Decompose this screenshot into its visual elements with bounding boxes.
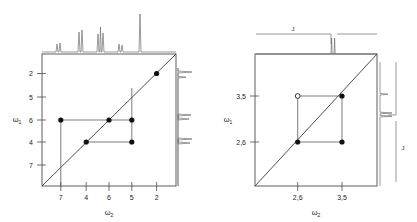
nmr-figure: 2 5 6 4 7 7 4 6 5 2 ω2 ω1 <box>0 0 417 222</box>
peak-cross-open-26-35 <box>295 94 300 99</box>
left-x-tick-label-4: 2 <box>155 194 159 201</box>
right-side-bracket <box>388 62 396 182</box>
right-side-bracket-label: J <box>402 145 405 151</box>
right-y-ticks <box>250 96 259 142</box>
peak-diagonal-26 <box>295 139 300 144</box>
right-peak-markers <box>295 93 345 144</box>
left-y-tick-label-4: 7 <box>29 162 33 169</box>
left-y-tick-label-0: 2 <box>29 70 33 77</box>
left-x-axis-label-sub: 2 <box>111 212 114 218</box>
left-x-tick-label-1: 4 <box>84 194 88 201</box>
peak-cross-35-26 <box>339 139 344 144</box>
left-peak-markers <box>58 71 159 145</box>
left-connectivity-lines <box>61 88 132 186</box>
right-side-trace <box>380 62 392 186</box>
left-y-axis-label: ω1 <box>13 115 22 125</box>
left-y-tick-label-1: 5 <box>29 94 33 101</box>
left-y-tick-label-2: 6 <box>29 117 33 124</box>
left-x-tick-label-2: 6 <box>107 194 111 201</box>
right-top-trace <box>256 38 377 54</box>
right-x-tick-label-1: 3,5 <box>337 194 347 201</box>
peak-diagonal-6 <box>106 117 111 122</box>
right-side-spectrum-path <box>380 62 392 186</box>
peak-cross-5-4 <box>129 139 134 144</box>
left-x-axis-label: ω2 <box>105 208 114 218</box>
peak-cross-5-6 <box>129 117 134 122</box>
right-y-tick-label-1: 2,6 <box>236 139 246 146</box>
right-y-axis-label: ω1 <box>224 115 233 125</box>
left-top-spectrum-path <box>42 14 176 52</box>
right-x-ticks <box>298 182 342 191</box>
right-top-bracket-label: J <box>292 26 295 32</box>
right-x-tick-label-0: 2,6 <box>293 194 303 201</box>
right-x-axis-label-sub: 2 <box>318 212 321 218</box>
peak-diagonal-2 <box>154 71 159 76</box>
left-y-ticks <box>37 74 46 166</box>
left-top-trace <box>42 14 176 52</box>
right-y-axis-label-sub: 1 <box>230 119 233 125</box>
right-y-tick-label-0: 3,5 <box>236 93 246 100</box>
peak-diagonal-4 <box>84 139 89 144</box>
left-side-trace <box>178 68 192 186</box>
figure-canvas: 2 5 6 4 7 7 4 6 5 2 ω2 ω1 <box>0 0 417 222</box>
right-connectivity-lines <box>298 96 342 142</box>
right-panel: J J <box>224 26 405 218</box>
left-x-ticks <box>61 182 157 191</box>
left-panel: 2 5 6 4 7 7 4 6 5 2 ω2 ω1 <box>13 14 192 218</box>
left-y-tick-label-3: 4 <box>29 139 33 146</box>
peak-diagonal-35 <box>339 93 344 98</box>
left-x-tick-label-3: 5 <box>130 194 134 201</box>
left-side-spectrum-path <box>178 68 192 186</box>
right-top-bracket <box>256 34 377 44</box>
left-x-tick-label-0: 7 <box>59 194 63 201</box>
right-diagonal-line <box>255 54 377 186</box>
right-top-spectrum-path <box>256 38 377 54</box>
right-x-axis-label: ω2 <box>312 208 321 218</box>
peak-cross-7-6 <box>58 117 63 122</box>
left-y-axis-label-sub: 1 <box>19 119 22 125</box>
